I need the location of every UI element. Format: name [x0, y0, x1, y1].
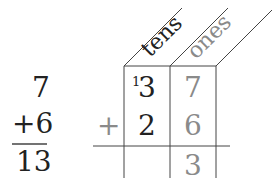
plus-operator: + — [97, 112, 120, 140]
ones-row2: 6 — [184, 112, 202, 140]
ones-result: 3 — [184, 152, 202, 180]
tens-row2: 2 — [138, 112, 156, 140]
tens-header: tens — [136, 10, 187, 61]
ones-row1: 7 — [184, 74, 202, 102]
sum: 13 — [16, 148, 52, 176]
addend-bottom: +6 — [12, 110, 53, 138]
ones-header: ones — [182, 9, 236, 63]
tens-row1: 3 — [138, 74, 156, 102]
addend-top: 7 — [32, 74, 50, 102]
